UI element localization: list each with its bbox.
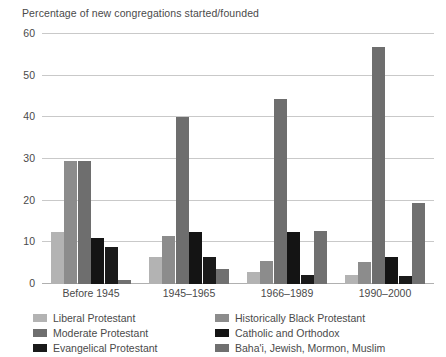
legend-swatch [215, 329, 229, 337]
legend-item: Baha'i, Jewish, Mormon, Muslim [215, 342, 415, 354]
bar [91, 238, 104, 284]
x-axis-tick-label: 1990–2000 [359, 287, 412, 299]
bar-chart-figure: Percentage of new congregations started/… [0, 0, 446, 357]
bars-layer [42, 34, 434, 284]
chart-title: Percentage of new congregations started/… [22, 7, 259, 19]
bar [189, 232, 202, 284]
y-axis-tick-label: 60 [23, 27, 35, 39]
legend-label: Baha'i, Jewish, Mormon, Muslim [235, 342, 385, 354]
bar [118, 280, 131, 284]
legend-swatch [33, 314, 47, 322]
bar [260, 261, 273, 284]
plot-area: 0102030405060 [42, 34, 434, 284]
legend-item: Liberal Protestant [33, 312, 215, 324]
bar [274, 99, 287, 284]
bar [51, 232, 64, 284]
bar [385, 257, 398, 284]
bar-group [149, 34, 230, 284]
legend-swatch [33, 329, 47, 337]
y-axis-tick-label: 20 [23, 194, 35, 206]
legend-label: Moderate Protestant [53, 327, 148, 339]
y-axis-tick-label: 40 [23, 110, 35, 122]
bar [247, 272, 260, 285]
bar [78, 161, 91, 284]
legend-label: Evangelical Protestant [53, 342, 157, 354]
chart-legend: Liberal ProtestantHistorically Black Pro… [33, 310, 433, 355]
bar [399, 276, 412, 284]
bar [176, 117, 189, 284]
bar [162, 236, 175, 284]
y-axis-tick-label: 0 [29, 277, 35, 289]
bar [372, 47, 385, 285]
legend-item: Evangelical Protestant [33, 342, 215, 354]
bar [358, 262, 371, 284]
x-axis-tick-label: Before 1945 [62, 287, 119, 299]
x-axis-labels: Before 19451945–19651966–19891990–2000 [42, 287, 434, 303]
bar [203, 257, 216, 284]
legend-swatch [215, 344, 229, 352]
bar-group [345, 34, 426, 284]
bar [314, 231, 327, 284]
bar [412, 203, 425, 284]
legend-label: Historically Black Protestant [235, 312, 365, 324]
x-axis-tick-label: 1966–1989 [261, 287, 314, 299]
legend-label: Liberal Protestant [53, 312, 135, 324]
legend-swatch [215, 314, 229, 322]
bar [301, 275, 314, 284]
y-axis-tick-label: 10 [23, 235, 35, 247]
bar [345, 275, 358, 284]
legend-item: Historically Black Protestant [215, 312, 415, 324]
y-axis-tick-label: 50 [23, 69, 35, 81]
bar [64, 161, 77, 284]
x-axis-tick-label: 1945–1965 [163, 287, 216, 299]
bar [216, 269, 229, 284]
legend-swatch [33, 344, 47, 352]
bar [149, 257, 162, 284]
bar [105, 247, 118, 285]
legend-item: Catholic and Orthodox [215, 327, 415, 339]
legend-item: Moderate Protestant [33, 327, 215, 339]
bar-group [247, 34, 328, 284]
y-axis-tick-label: 30 [23, 152, 35, 164]
bar-group [51, 34, 132, 284]
bar [287, 232, 300, 284]
legend-label: Catholic and Orthodox [235, 327, 339, 339]
